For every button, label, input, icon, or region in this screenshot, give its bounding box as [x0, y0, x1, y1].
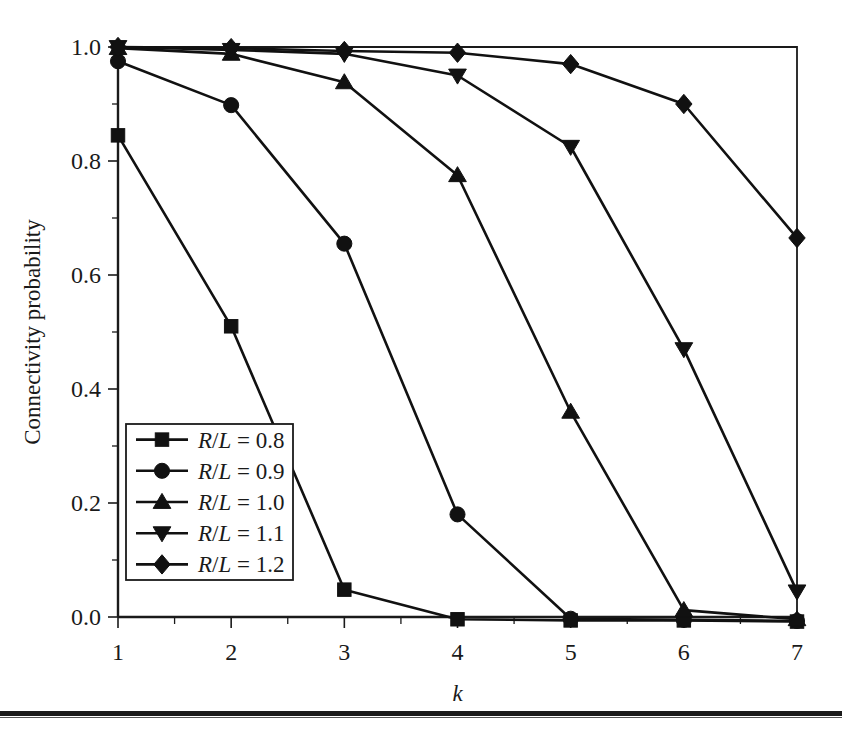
legend-entry-label: R/L = 1.0 — [197, 490, 284, 515]
y-axis-tick-label: 1.0 — [71, 34, 101, 60]
data-marker-circle — [224, 98, 239, 113]
x-axis-tick-label: 7 — [791, 639, 803, 665]
y-axis-tick-label: 0.8 — [71, 148, 101, 174]
data-marker-triangle-down — [675, 343, 693, 358]
page-divider-rule-thin — [0, 717, 842, 718]
x-axis-title: k — [452, 681, 463, 706]
x-axis-tick-label: 3 — [338, 639, 350, 665]
legend-entry-label: R/L = 1.1 — [197, 521, 284, 546]
data-marker-circle — [563, 611, 578, 626]
data-marker-triangle-down — [449, 69, 467, 84]
y-axis-tick-label: 0.0 — [71, 604, 101, 630]
data-marker-square — [155, 433, 168, 446]
y-axis-tick-label: 0.2 — [71, 490, 101, 516]
y-axis-tick-label: 0.4 — [71, 376, 101, 402]
x-axis-tick-label: 1 — [112, 639, 124, 665]
data-marker-square — [451, 613, 464, 626]
data-marker-square — [224, 320, 237, 333]
y-axis-tick-label: 0.6 — [71, 262, 101, 288]
data-marker-diamond — [562, 54, 578, 73]
data-marker-diamond — [449, 43, 465, 62]
data-marker-triangle-down — [562, 140, 580, 155]
x-axis-tick-label: 6 — [678, 639, 690, 665]
x-axis-tick-label: 2 — [225, 639, 237, 665]
data-marker-square — [338, 583, 351, 596]
legend-entry-label: R/L = 1.2 — [197, 552, 284, 577]
legend-entry-label: R/L = 0.8 — [197, 428, 284, 453]
data-marker-circle — [337, 236, 352, 251]
data-marker-triangle-up — [562, 403, 580, 418]
data-marker-square — [111, 129, 124, 142]
legend-entry-label: R/L = 0.9 — [197, 459, 284, 484]
x-axis-tick-label: 4 — [452, 639, 464, 665]
data-marker-triangle-up — [675, 602, 693, 617]
x-axis-tick-label: 5 — [565, 639, 577, 665]
chart-legend: R/L = 0.8R/L = 0.9R/L = 1.0R/L = 1.1R/L … — [126, 424, 293, 580]
data-marker-circle — [450, 507, 465, 522]
data-marker-triangle-down — [788, 585, 806, 600]
page-divider-rule — [0, 711, 842, 716]
y-axis-title: Connectivity probability — [20, 219, 45, 445]
connectivity-probability-chart: 0.00.20.40.60.81.01234567kConnectivity p… — [0, 0, 842, 735]
figure-container: 0.00.20.40.60.81.01234567kConnectivity p… — [0, 0, 842, 735]
data-marker-circle — [154, 463, 169, 478]
data-marker-diamond — [336, 41, 352, 60]
